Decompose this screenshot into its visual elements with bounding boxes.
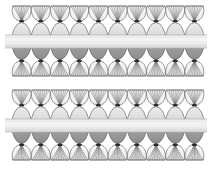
pattern-canvas: Scalloped shell and banded ellipse borde… — [0, 0, 212, 170]
pattern-row-upper — [5, 6, 207, 76]
pattern-row-lower — [5, 90, 207, 160]
pattern-artboard: Scalloped shell and banded ellipse borde… — [0, 0, 212, 170]
horizontal-band-upper — [5, 35, 207, 48]
horizontal-band-lower — [5, 119, 207, 132]
